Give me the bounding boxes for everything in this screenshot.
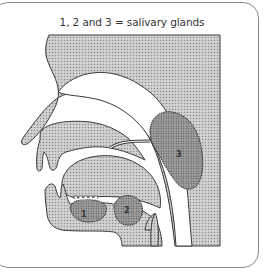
head-cross-section-diagram: 3 1 2	[0, 0, 264, 274]
gland-2-label: 2	[124, 206, 130, 215]
tongue	[62, 156, 161, 208]
gland-1-label: 1	[81, 210, 87, 219]
gland-3-label: 3	[176, 150, 182, 159]
